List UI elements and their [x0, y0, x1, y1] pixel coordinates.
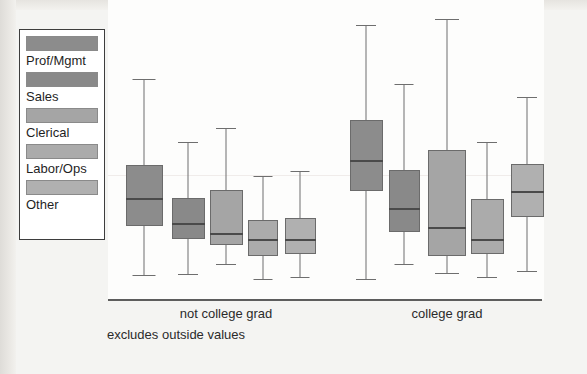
- boxplot[interactable]: [471, 0, 504, 300]
- box-iqr: [471, 199, 504, 254]
- legend-item-clerical[interactable]: Clerical: [26, 108, 98, 142]
- whisker-cap-lower: [477, 277, 497, 278]
- whisker-cap-upper: [517, 97, 537, 98]
- scan-edge-left: [0, 0, 16, 374]
- box-iqr: [172, 198, 205, 239]
- whisker-lower: [366, 191, 367, 279]
- box-iqr: [210, 190, 243, 245]
- legend-item-sales[interactable]: Sales: [26, 72, 98, 106]
- whisker-cap-lower: [435, 273, 459, 274]
- box-iqr: [389, 170, 420, 232]
- box-iqr: [350, 120, 383, 191]
- median-line: [126, 198, 163, 200]
- boxplot[interactable]: [511, 0, 544, 300]
- boxplot[interactable]: [428, 0, 466, 300]
- median-line: [389, 208, 420, 210]
- whisker-cap-lower: [395, 264, 414, 265]
- legend-item-label: Labor/Ops: [26, 159, 98, 178]
- whisker-lower: [263, 256, 264, 279]
- whisker-cap-upper: [254, 176, 273, 177]
- box-iqr: [428, 150, 466, 256]
- whisker-cap-lower: [356, 279, 376, 280]
- legend-item-prof-mgmt[interactable]: Prof/Mgmt: [26, 36, 98, 70]
- median-line: [428, 227, 466, 229]
- whisker-cap-lower: [178, 274, 198, 275]
- legend-item-label: Sales: [26, 87, 98, 106]
- legend-item-label: Clerical: [26, 123, 98, 142]
- whisker-lower: [300, 254, 301, 277]
- legend-item-label: Prof/Mgmt: [26, 51, 98, 70]
- whisker-lower: [188, 239, 189, 274]
- whisker-cap-upper: [133, 79, 156, 80]
- whisker-lower: [144, 226, 145, 275]
- median-line: [248, 239, 278, 241]
- boxplot[interactable]: [126, 0, 163, 300]
- median-line: [471, 239, 504, 241]
- whisker-lower: [447, 256, 448, 273]
- whisker-upper: [404, 84, 405, 170]
- boxplot[interactable]: [210, 0, 243, 300]
- excludes-outside-values-note: excludes outside values: [107, 327, 245, 342]
- legend-item-label: Other: [26, 195, 98, 214]
- legend-swatch: [26, 72, 98, 87]
- box-iqr: [126, 165, 163, 226]
- whisker-cap-upper: [477, 142, 497, 143]
- median-line: [350, 160, 383, 162]
- median-line: [172, 223, 205, 225]
- whisker-cap-upper: [356, 25, 376, 26]
- whisker-cap-upper: [216, 128, 236, 129]
- whisker-upper: [263, 176, 264, 220]
- median-line: [210, 233, 243, 235]
- box-iqr: [285, 218, 316, 254]
- whisker-upper: [144, 79, 145, 165]
- whisker-upper: [487, 142, 488, 199]
- legend-swatch: [26, 36, 98, 51]
- whisker-cap-upper: [178, 142, 198, 143]
- x-axis-line: [108, 299, 542, 301]
- whisker-lower: [487, 254, 488, 277]
- whisker-cap-lower: [254, 279, 273, 280]
- median-line: [285, 239, 316, 241]
- boxplot[interactable]: [285, 0, 316, 300]
- whisker-cap-upper: [435, 19, 459, 20]
- median-line: [511, 191, 544, 193]
- x-axis-group-label: not college grad: [180, 306, 273, 321]
- whisker-cap-lower: [291, 277, 310, 278]
- box-iqr: [248, 220, 278, 256]
- x-axis-group-label: college grad: [412, 306, 483, 321]
- whisker-upper: [527, 97, 528, 164]
- whisker-lower: [404, 232, 405, 264]
- legend-item-other[interactable]: Other: [26, 180, 98, 214]
- legend-item-labor-ops[interactable]: Labor/Ops: [26, 144, 98, 178]
- whisker-lower: [527, 217, 528, 271]
- whisker-upper: [447, 19, 448, 150]
- boxplot[interactable]: [350, 0, 383, 300]
- plot-area: [108, 0, 544, 300]
- boxplot[interactable]: [248, 0, 278, 300]
- whisker-cap-lower: [216, 264, 236, 265]
- whisker-cap-upper: [291, 171, 310, 172]
- whisker-cap-upper: [395, 84, 414, 85]
- whisker-cap-lower: [133, 275, 156, 276]
- boxplot[interactable]: [389, 0, 420, 300]
- figure-page: not college gradcollege grad excludes ou…: [0, 0, 587, 374]
- whisker-upper: [188, 142, 189, 198]
- whisker-upper: [300, 171, 301, 218]
- whisker-lower: [226, 245, 227, 264]
- legend-swatch: [26, 180, 98, 195]
- whisker-upper: [226, 128, 227, 190]
- whisker-upper: [366, 25, 367, 120]
- legend-swatch: [26, 108, 98, 123]
- whisker-cap-lower: [517, 271, 537, 272]
- legend-swatch: [26, 144, 98, 159]
- boxplot[interactable]: [172, 0, 205, 300]
- occupation-legend: Prof/MgmtSalesClericalLabor/OpsOther: [19, 29, 105, 240]
